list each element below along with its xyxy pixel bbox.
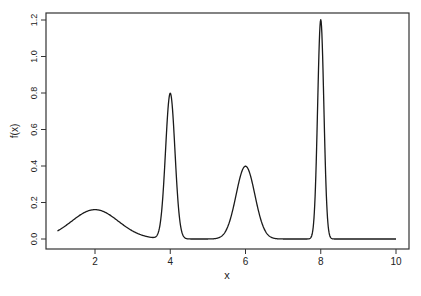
x-axis-label: x	[224, 269, 230, 281]
x-tick-label: 4	[167, 256, 173, 267]
x-tick-label: 6	[243, 256, 249, 267]
x-tick-label: 8	[318, 256, 324, 267]
y-tick-label: 1.0	[29, 50, 39, 63]
y-tick-label: 0.0	[29, 233, 39, 246]
y-axis-label: f(x)	[9, 124, 20, 138]
plot-box	[46, 13, 409, 249]
x-axis: 246810	[92, 249, 402, 267]
y-tick-label: 0.6	[29, 123, 39, 136]
density-chart: 246810 0.00.20.40.60.81.01.2 x f(x)	[0, 0, 421, 296]
y-tick-label: 0.4	[29, 160, 39, 173]
y-tick-label: 0.2	[29, 196, 39, 209]
x-tick-label: 10	[390, 256, 402, 267]
y-axis: 0.00.20.40.60.81.01.2	[29, 14, 46, 246]
y-tick-label: 1.2	[29, 14, 39, 27]
y-tick-label: 0.8	[29, 87, 39, 100]
x-tick-label: 2	[92, 256, 98, 267]
density-curve	[57, 20, 396, 239]
